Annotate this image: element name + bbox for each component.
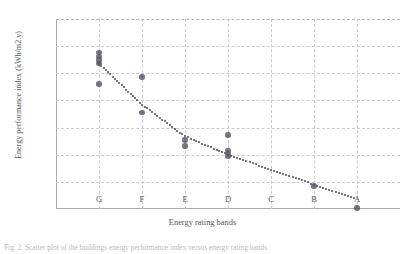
data-point (139, 74, 145, 80)
trendline-dot (207, 145, 209, 147)
trendline-dot (252, 162, 254, 164)
trendline-dot (285, 174, 287, 176)
trendline-dot (151, 111, 153, 113)
trendline-dot (276, 171, 278, 173)
trendline-dot (141, 104, 143, 106)
x-axis-tick-label-C: C (256, 194, 286, 204)
trendline-dot (282, 173, 284, 175)
y-axis-line (56, 19, 57, 209)
x-axis-tick-label-B: B (299, 194, 329, 204)
trendline-dot (255, 163, 257, 165)
figure-caption: Fig. 2. Scatter plot of the buildings en… (4, 243, 402, 252)
trendline-dot (201, 143, 203, 145)
trendline-dot (109, 73, 111, 75)
trendline-dot (112, 76, 114, 78)
gridline-vertical (185, 19, 186, 209)
trendline-dot (218, 150, 220, 152)
trendline-dot (331, 190, 333, 192)
data-point (96, 81, 102, 87)
trendline-dot (270, 169, 272, 171)
figure-scatter-energy-performance: Energy performance index (kWh/m2.y) Ener… (0, 0, 405, 254)
trendline-dot (292, 176, 294, 178)
trendline-dot (307, 181, 309, 183)
data-point (354, 205, 360, 211)
gridline-vertical (271, 19, 272, 209)
trendline-dot (193, 139, 195, 141)
data-point (311, 183, 317, 189)
trendline-dot (233, 156, 235, 158)
trendline-dot (325, 188, 327, 190)
plot-area (56, 19, 400, 209)
y-axis-title: Energy performance index (kWh/m2.y) (12, 0, 26, 190)
data-point (182, 143, 188, 149)
gridline-vertical (314, 19, 315, 209)
trendline-dot (213, 148, 215, 150)
trendline-dot (322, 187, 324, 189)
trendline-dot (123, 86, 125, 88)
trendline-dot (236, 157, 238, 159)
trendline-dot (221, 151, 223, 153)
trendline-dot (328, 189, 330, 191)
data-point (225, 132, 231, 138)
data-point (182, 137, 188, 143)
trendline-dot (267, 168, 269, 170)
trendline-dot (338, 192, 340, 194)
gridline-vertical (357, 19, 358, 209)
x-axis-tick-label-E: E (170, 194, 200, 204)
gridline-vertical (99, 19, 100, 209)
trendline-dot (216, 149, 218, 151)
trendline-dot (279, 172, 281, 174)
trendline-dot (335, 191, 337, 193)
trendline-dot (264, 167, 266, 169)
data-point (139, 110, 145, 116)
trendline-dot (288, 175, 290, 177)
trendline-dot (190, 138, 192, 140)
x-axis-title: Energy rating bands (0, 218, 405, 227)
trendline-dot (127, 91, 129, 93)
x-axis-tick-label-G: G (84, 194, 114, 204)
data-point (225, 154, 231, 160)
trendline-dot (198, 141, 200, 143)
trendline-dot (298, 178, 300, 180)
trendline-dot (195, 140, 197, 142)
data-point (96, 61, 102, 67)
trendline-dot (239, 158, 241, 160)
trendline-dot (249, 161, 251, 163)
x-axis-tick-label-D: D (213, 194, 243, 204)
trendline-dot (258, 165, 260, 167)
trendline-dot (146, 107, 148, 109)
trendline-dot (204, 144, 206, 146)
trendline-dot (166, 122, 168, 124)
trendline-dot (156, 115, 158, 117)
x-axis-tick-label-A: A (342, 194, 372, 204)
trendline-dot (273, 170, 275, 172)
gridline-vertical (228, 19, 229, 209)
trendline-dot (176, 130, 178, 132)
trendline-dot (161, 119, 163, 121)
trendline-dot (261, 166, 263, 168)
trendline-dot (319, 186, 321, 188)
trendline-dot (295, 177, 297, 179)
x-axis-tick-label-F: F (127, 194, 157, 204)
trendline-dot (242, 159, 244, 161)
trendline-dot (210, 146, 212, 148)
trendline-dot (245, 160, 247, 162)
